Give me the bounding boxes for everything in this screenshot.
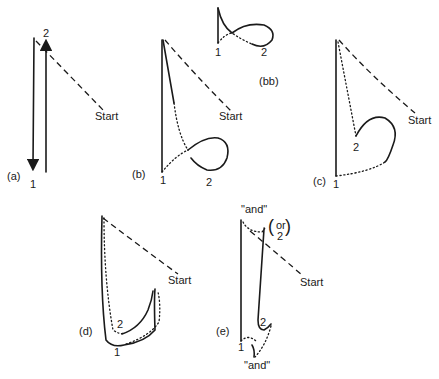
dotted-return [336,162,385,176]
start-label: Start [408,114,431,126]
bottom-stroke [252,345,254,357]
panel-label: (bb) [259,75,279,87]
start-path [103,218,178,274]
point-1-label: 1 [333,178,339,190]
point-2-label: 2 [43,27,49,39]
panel-d: Start (d) 2 1 [79,216,191,358]
panel-label: (a) [7,170,20,182]
or-2-label: 2 [277,230,283,242]
and-top-label: "and" [241,203,267,215]
panel-label: (d) [79,325,92,337]
panel-label: (c) [313,175,326,187]
point-2-label: 2 [117,318,123,330]
point-1-label: 1 [215,46,221,58]
panel-bb: 1 2 (bb) [215,8,279,87]
panel-c: Start 2 (c) 1 [313,40,431,190]
start-label: Start [300,276,323,288]
start-path [165,40,232,112]
and-bottom-label: "and" [244,359,270,371]
dotted-inner [104,218,124,334]
stroke-solid [102,216,156,346]
paren-right: ) [285,216,291,236]
point-2-label: 2 [353,141,359,153]
start-label: Start [95,110,118,122]
loop-solid [356,117,395,162]
loop-solid [218,8,273,46]
panel-a: Start (a) 1 2 [7,27,118,190]
start-label: Start [168,274,191,286]
point-2-label: 2 [260,316,266,328]
stroke-solid-2 [258,229,271,330]
point-1-label: 1 [114,346,120,358]
diagram-canvas: Start (a) 1 2 1 2 (bb) Start (b) 1 2 Sta… [0,0,439,379]
start-label: Start [219,110,242,122]
dotted-top [243,222,265,232]
dotted-to-loop [174,103,188,150]
panel-label: (e) [216,325,229,337]
inner-solid [122,291,153,334]
paren-left: ( [268,216,274,236]
loop-solid [188,138,228,171]
point-2-label: 2 [206,176,212,188]
point-1-label: 1 [160,174,166,186]
stroke-down-arrow [33,38,34,165]
loop-dotted [162,150,188,172]
point-1-label: 1 [238,341,244,353]
point-1-label: 1 [30,178,36,190]
panel-e: "and" or 2 ( ) Start (e) 2 1 "and" [216,203,323,371]
panel-label: (b) [132,168,145,180]
start-path [339,40,415,113]
loop-dotted [218,33,252,44]
panel-b: Start (b) 1 2 [132,40,242,188]
point-2-label: 2 [261,46,267,58]
